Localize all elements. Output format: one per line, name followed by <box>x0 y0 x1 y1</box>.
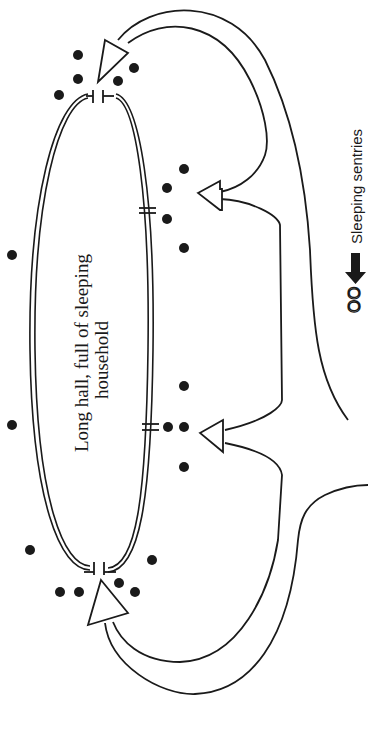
top-door <box>86 90 114 103</box>
hall-label-line2: household <box>91 320 112 399</box>
arrow-to-bottom-door <box>88 485 368 694</box>
arrow-icon <box>345 253 366 284</box>
long-hall: Long hall, full of sleeping household <box>30 90 159 575</box>
arrow-to-upper-side-door <box>198 181 282 430</box>
side-door-upper <box>139 208 156 213</box>
arrow-to-lower-side-door <box>113 420 282 662</box>
raid-diagram: Long hall, full of sleeping household <box>0 0 379 733</box>
hall-label-line1: Long hall, full of sleeping <box>71 254 92 452</box>
sentry-symbol: OO <box>345 287 364 313</box>
legend: OO Sleeping sentries <box>345 129 366 313</box>
legend-label: Sleeping sentries <box>348 129 365 244</box>
bottom-door <box>84 562 116 575</box>
